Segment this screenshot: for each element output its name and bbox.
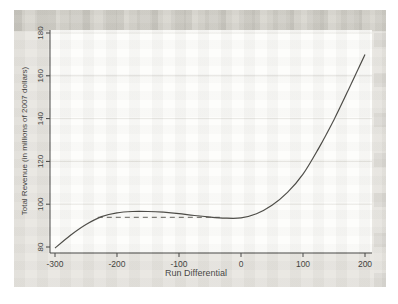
x-tick-label-100: 100 bbox=[296, 259, 310, 269]
y-tick-label-80: 80 bbox=[36, 242, 45, 251]
x-tick-label-0: 0 bbox=[239, 259, 244, 269]
y-tick-label-100: 100 bbox=[36, 197, 45, 211]
scanned-figure: 80100120140160180 -300-200-1000100200 To… bbox=[14, 10, 386, 287]
plot-area bbox=[50, 30, 372, 253]
y-tick-label-160: 160 bbox=[36, 69, 45, 83]
x-tick-label--300: -300 bbox=[46, 259, 63, 269]
x-tick-label--200: -200 bbox=[108, 259, 125, 269]
x-tick-label-200: 200 bbox=[358, 259, 372, 269]
y-axis-ticks: 80100120140160180 bbox=[36, 26, 50, 252]
x-axis-title: Run Differential bbox=[165, 268, 227, 278]
revenue-vs-run-differential-chart: 80100120140160180 -300-200-1000100200 To… bbox=[14, 10, 386, 287]
y-tick-label-120: 120 bbox=[36, 154, 45, 168]
x-axis-ticks: -300-200-1000100200 bbox=[46, 253, 372, 269]
y-axis-title: Total Revenue (in millions of 2007 dolla… bbox=[20, 66, 29, 215]
y-tick-label-140: 140 bbox=[36, 111, 45, 125]
y-tick-label-180: 180 bbox=[36, 26, 45, 40]
